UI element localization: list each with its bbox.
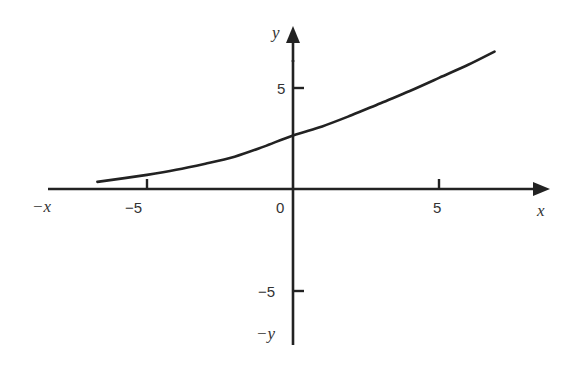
y-neg-label: −y bbox=[256, 324, 275, 343]
chart: −x −5 0 5 x y 5 −5 −y bbox=[0, 0, 573, 375]
x-axis-label: x bbox=[536, 201, 545, 220]
x-neg-label: −x bbox=[32, 197, 51, 216]
y-tick-label-pos5: 5 bbox=[277, 80, 285, 97]
data-curve bbox=[97, 52, 494, 182]
y-axis-label: y bbox=[270, 23, 280, 42]
x-tick-label-pos5: 5 bbox=[433, 199, 441, 216]
y-tick-label-neg5: −5 bbox=[258, 283, 275, 300]
x-tick-label-neg5: −5 bbox=[125, 199, 142, 216]
origin-label: 0 bbox=[276, 199, 284, 216]
x-axis-arrow-icon bbox=[533, 182, 550, 196]
